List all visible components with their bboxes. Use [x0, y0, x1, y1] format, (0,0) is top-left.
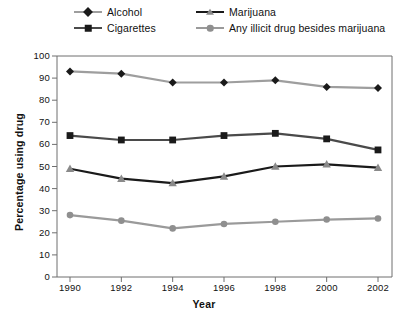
y-tick-label: 50: [24, 162, 50, 172]
plot-area: [0, 0, 408, 327]
y-tick-label: 100: [24, 51, 50, 61]
axis-frame: [57, 56, 392, 277]
plot-svg: [0, 0, 408, 327]
data-point-circle: [221, 221, 228, 228]
y-tick-label: 60: [24, 139, 50, 149]
data-point-square: [169, 137, 176, 144]
y-axis-title: Percentage using drug: [13, 97, 25, 247]
y-axis-tick-labels: 0102030405060708090100: [22, 0, 50, 327]
data-point-diamond: [117, 70, 125, 78]
y-tick-label: 0: [24, 272, 50, 282]
line-chart: AlcoholMarijuanaCigarettesAny illicit dr…: [0, 0, 408, 327]
x-tick-label: 1992: [98, 283, 144, 293]
data-point-diamond: [271, 76, 279, 84]
y-tick-label: 20: [24, 228, 50, 238]
data-point-diamond: [323, 83, 331, 91]
x-axis-title: Year: [0, 298, 408, 310]
series-markers-alcohol: [66, 67, 382, 92]
data-point-square: [221, 132, 228, 139]
data-point-circle: [67, 212, 74, 219]
data-point-square: [375, 147, 382, 154]
y-tick-label: 30: [24, 206, 50, 216]
y-tick-label: 70: [24, 117, 50, 127]
data-point-circle: [323, 216, 330, 223]
x-tick-label: 1998: [252, 283, 298, 293]
x-tick-label: 1990: [47, 283, 93, 293]
series-markers-cigarettes: [67, 130, 382, 153]
data-point-square: [118, 137, 125, 144]
y-tick-label: 90: [24, 73, 50, 83]
data-point-diamond: [169, 79, 177, 87]
data-point-diamond: [66, 67, 74, 75]
data-point-circle: [272, 218, 279, 225]
y-tick-label: 40: [24, 184, 50, 194]
data-point-square: [272, 130, 279, 137]
data-point-circle: [375, 215, 382, 222]
x-tick-label: 1996: [201, 283, 247, 293]
y-tick-label: 10: [24, 250, 50, 260]
y-tick-label: 80: [24, 95, 50, 105]
data-point-square: [323, 135, 330, 142]
data-point-circle: [169, 225, 176, 232]
data-point-diamond: [374, 84, 382, 92]
x-tick-label: 2000: [304, 283, 350, 293]
x-axis-tick-labels: 1990199219941996199820002002: [0, 283, 408, 297]
data-point-diamond: [220, 79, 228, 87]
x-tick-label: 2002: [355, 283, 401, 293]
data-point-square: [67, 132, 74, 139]
series-markers-any-illicit-drug-besides-marijuana: [67, 212, 382, 232]
x-tick-label: 1994: [150, 283, 196, 293]
data-point-circle: [118, 217, 125, 224]
